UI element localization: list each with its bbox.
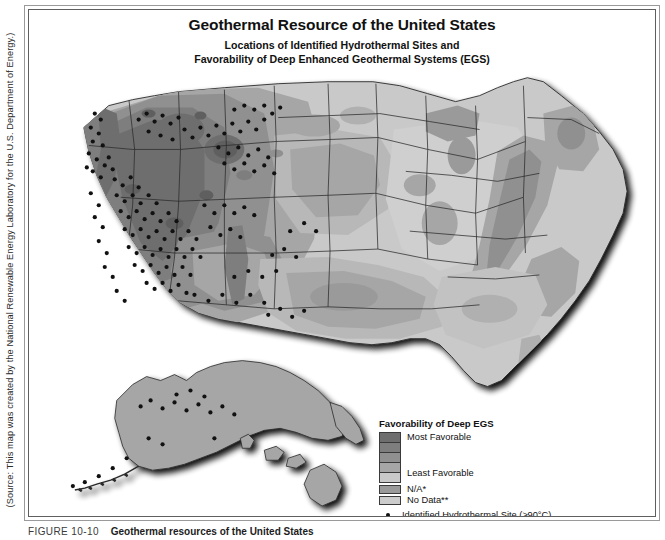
figure-frame: Geothermal Resource of the United States…	[24, 5, 660, 521]
figure-caption: FIGURE 10-10 Geothermal resources of the…	[28, 526, 648, 537]
legend-color-ramp-row: Most Favorable Least Favorable	[379, 432, 619, 483]
map-stage: Geothermal Resource of the United States…	[29, 10, 655, 516]
map-subtitle-line2: Favorability of Deep Enhanced Geothermal…	[29, 52, 655, 66]
legend-ramp-labels: Most Favorable Least Favorable	[407, 432, 619, 477]
page-title: Geothermal Resource of the United States	[29, 16, 655, 34]
legend-ramp-swatch-1	[380, 433, 400, 443]
legend-swatch-1	[379, 485, 401, 494]
legend-title: Favorability of Deep EGS	[379, 418, 619, 429]
legend-color-ramp	[379, 432, 401, 483]
hawaii-inset	[240, 434, 342, 506]
legend-ramp-swatch-4	[380, 463, 400, 473]
legend-category-items: N/A*No Data**	[379, 484, 619, 505]
legend-item-label-1: N/A*	[407, 484, 426, 494]
legend-swatch-2	[379, 496, 401, 505]
figure-caption-text: Geothermal resources of the United State…	[111, 526, 314, 537]
map-subtitle-line1: Locations of Identified Hydrothermal Sit…	[29, 38, 655, 52]
figure-number: FIGURE 10-10	[28, 526, 99, 537]
legend-item-1: N/A*	[379, 484, 619, 494]
legend-ramp-swatch-2	[380, 443, 400, 453]
source-credit-text: (Source: This map was created by the Nat…	[5, 33, 15, 508]
map-title-block: Geothermal Resource of the United States…	[29, 16, 655, 66]
map-legend: Favorability of Deep EGS Most Favorable …	[379, 418, 619, 516]
source-credit: (Source: This map was created by the Nat…	[0, 0, 21, 540]
legend-point-label: Identified Hydrothermal Site (≥90°C)	[402, 510, 551, 516]
legend-ramp-swatch-3	[380, 453, 400, 463]
legend-item-label-2: No Data**	[407, 495, 448, 505]
legend-label-most-favorable: Most Favorable	[407, 432, 471, 442]
legend-item-2: No Data**	[379, 495, 619, 505]
legend-ramp-swatch-5	[380, 473, 400, 482]
legend-point-entry: Identified Hydrothermal Site (≥90°C)	[379, 510, 619, 516]
hydrothermal-site-icon	[386, 513, 390, 516]
legend-label-least-favorable: Least Favorable	[407, 468, 474, 478]
